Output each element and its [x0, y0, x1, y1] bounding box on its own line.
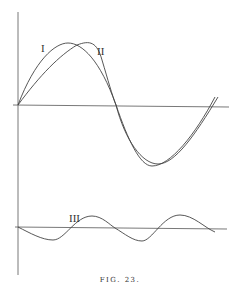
curve-I-label: I	[41, 42, 45, 54]
figure-diagram: I II III	[0, 0, 240, 294]
curve-I	[18, 43, 215, 166]
curve-II-label: II	[97, 45, 105, 57]
upper-horizontal-axis	[13, 105, 229, 107]
lower-horizontal-axis	[15, 227, 227, 229]
curve-II	[18, 43, 218, 164]
curve-III-label: III	[69, 212, 80, 224]
figure-caption: FIG. 23.	[0, 276, 240, 284]
